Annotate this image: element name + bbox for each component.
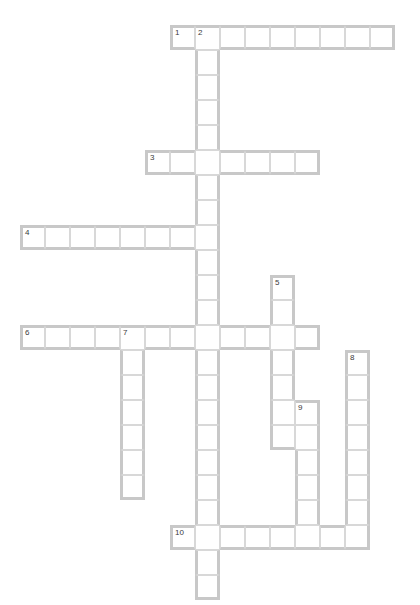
crossword-cell[interactable] <box>345 425 370 450</box>
clue-number-10: 10 <box>175 528 184 538</box>
crossword-cell[interactable] <box>170 150 195 175</box>
crossword-cell[interactable] <box>170 325 195 350</box>
crossword-cell[interactable] <box>195 75 220 100</box>
crossword-cell[interactable] <box>120 425 145 450</box>
crossword-cell[interactable]: 2 <box>195 25 220 50</box>
crossword-cell[interactable]: 9 <box>295 400 320 425</box>
crossword-cell[interactable] <box>270 150 295 175</box>
crossword-cell[interactable] <box>345 375 370 400</box>
crossword-cell[interactable] <box>245 150 270 175</box>
crossword-cell[interactable] <box>195 350 220 375</box>
clue-number-2: 2 <box>198 28 202 38</box>
crossword-cell[interactable] <box>270 375 295 400</box>
crossword-cell[interactable]: 7 <box>120 325 145 350</box>
clue-number-6: 6 <box>25 328 29 338</box>
crossword-cell[interactable]: 1 <box>170 25 195 50</box>
crossword-cell[interactable] <box>195 500 220 525</box>
crossword-cell[interactable] <box>270 350 295 375</box>
crossword-cell[interactable] <box>195 150 220 175</box>
clue-number-7: 7 <box>123 328 127 338</box>
crossword-cell[interactable] <box>220 325 245 350</box>
crossword-cell[interactable]: 3 <box>145 150 170 175</box>
crossword-cell[interactable] <box>295 425 320 450</box>
crossword-cell[interactable] <box>345 500 370 525</box>
crossword-cell[interactable] <box>195 100 220 125</box>
crossword-cell[interactable] <box>345 450 370 475</box>
crossword-cell[interactable] <box>195 450 220 475</box>
crossword-cell[interactable] <box>120 400 145 425</box>
crossword-cell[interactable] <box>345 25 370 50</box>
crossword-cell[interactable] <box>370 25 395 50</box>
crossword-cell[interactable] <box>295 450 320 475</box>
crossword-cell[interactable] <box>195 175 220 200</box>
crossword-cell[interactable] <box>195 525 220 550</box>
crossword-cell[interactable] <box>45 325 70 350</box>
crossword-cell[interactable] <box>195 300 220 325</box>
crossword-cell[interactable] <box>120 350 145 375</box>
crossword-cell[interactable]: 10 <box>170 525 195 550</box>
crossword-cell[interactable] <box>145 325 170 350</box>
crossword-cell[interactable]: 4 <box>20 225 45 250</box>
crossword-cell[interactable] <box>195 475 220 500</box>
crossword-cell[interactable] <box>120 450 145 475</box>
clue-number-9: 9 <box>298 403 302 413</box>
crossword-cell[interactable] <box>270 325 295 350</box>
crossword-cell[interactable] <box>195 575 220 600</box>
crossword-cell[interactable] <box>295 25 320 50</box>
crossword-cell[interactable] <box>195 250 220 275</box>
crossword-cell[interactable] <box>220 25 245 50</box>
crossword-cell[interactable] <box>245 25 270 50</box>
crossword-cell[interactable] <box>295 150 320 175</box>
crossword-cell[interactable] <box>295 500 320 525</box>
crossword-cell[interactable] <box>95 325 120 350</box>
crossword-cell[interactable]: 8 <box>345 350 370 375</box>
crossword-cell[interactable] <box>270 525 295 550</box>
crossword-cell[interactable] <box>345 525 370 550</box>
crossword-cell[interactable] <box>270 25 295 50</box>
crossword-cell[interactable] <box>145 225 170 250</box>
crossword-cell[interactable] <box>195 50 220 75</box>
crossword-cell[interactable] <box>295 475 320 500</box>
crossword-cell[interactable] <box>320 525 345 550</box>
crossword-cell[interactable] <box>120 475 145 500</box>
crossword-cell[interactable] <box>195 325 220 350</box>
crossword-cell[interactable] <box>345 475 370 500</box>
crossword-cell[interactable] <box>245 525 270 550</box>
crossword-cell[interactable] <box>270 425 295 450</box>
crossword-cell[interactable]: 6 <box>20 325 45 350</box>
clue-number-3: 3 <box>150 153 154 163</box>
clue-number-8: 8 <box>350 353 354 363</box>
crossword-cell[interactable] <box>270 400 295 425</box>
crossword-cell[interactable] <box>95 225 120 250</box>
crossword-cell[interactable] <box>195 200 220 225</box>
clue-number-1: 1 <box>175 28 179 38</box>
crossword-grid[interactable]: 12345678910 <box>0 0 420 605</box>
crossword-cell[interactable] <box>270 300 295 325</box>
crossword-cell[interactable] <box>245 325 270 350</box>
crossword-cell[interactable] <box>195 125 220 150</box>
crossword-cell[interactable] <box>170 225 195 250</box>
crossword-cell[interactable] <box>195 400 220 425</box>
crossword-cell[interactable] <box>45 225 70 250</box>
crossword-cell[interactable] <box>195 550 220 575</box>
crossword-cell[interactable] <box>195 225 220 250</box>
clue-number-4: 4 <box>25 228 29 238</box>
crossword-cell[interactable] <box>70 225 95 250</box>
crossword-cell[interactable] <box>345 400 370 425</box>
crossword-cell[interactable] <box>295 325 320 350</box>
crossword-cell[interactable]: 5 <box>270 275 295 300</box>
crossword-cell[interactable] <box>320 25 345 50</box>
crossword-cell[interactable] <box>70 325 95 350</box>
crossword-cell[interactable] <box>195 275 220 300</box>
clue-number-5: 5 <box>275 278 279 288</box>
crossword-cell[interactable] <box>120 225 145 250</box>
crossword-cell[interactable] <box>295 525 320 550</box>
crossword-cell[interactable] <box>195 375 220 400</box>
crossword-cell[interactable] <box>220 150 245 175</box>
crossword-cell[interactable] <box>195 425 220 450</box>
crossword-cell[interactable] <box>120 375 145 400</box>
crossword-cell[interactable] <box>220 525 245 550</box>
